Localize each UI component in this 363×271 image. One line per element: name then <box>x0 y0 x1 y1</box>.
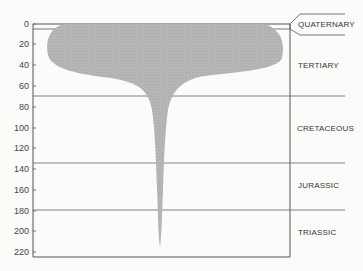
tick-label: 40 <box>19 60 29 70</box>
tick-label: 80 <box>19 102 29 112</box>
tick-label: 20 <box>19 39 29 49</box>
tick-label: 220 <box>14 247 29 257</box>
tick-label: 180 <box>14 206 29 216</box>
period-label-tertiary: TERTIARY <box>298 61 339 70</box>
tick-label: 120 <box>14 143 29 153</box>
tick-label: 0 <box>24 19 29 29</box>
period-label-cretaceous: CRETACEOUS <box>297 124 354 133</box>
period-label-quaternary: QUATERNARY <box>298 20 355 29</box>
period-label-jurassic: JURASSIC <box>298 181 339 190</box>
y-axis-tick-labels: 0 20 40 60 80 100 120 140 160 180 200 22… <box>14 19 29 257</box>
tick-label: 160 <box>14 185 29 195</box>
tick-label: 100 <box>14 123 29 133</box>
tick-label: 60 <box>19 81 29 91</box>
tick-label: 140 <box>14 164 29 174</box>
tick-label: 200 <box>14 226 29 236</box>
spindle-shape <box>47 24 283 248</box>
spindle-chart: 0 20 40 60 80 100 120 140 160 180 200 22… <box>0 0 363 271</box>
period-label-triassic: TRIASSIC <box>298 228 337 237</box>
